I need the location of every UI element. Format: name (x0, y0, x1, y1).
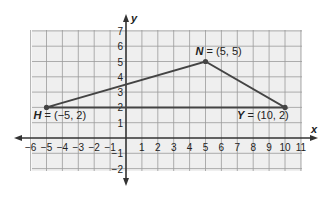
x-tick-label: 2 (155, 142, 161, 153)
y-tick-label: 6 (117, 41, 123, 52)
x-axis-label: x (310, 123, 318, 135)
x-tick-label: 6 (219, 142, 225, 153)
point-y-label: Y = (10, 2) (237, 109, 289, 121)
x-tick-label: −5 (41, 142, 53, 153)
y-axis-bottom-arrow-icon (123, 178, 129, 186)
point-n-label: N = (5, 5) (196, 45, 242, 57)
y-axis-top-arrow-icon (123, 14, 129, 22)
x-tick-label: −2 (88, 142, 100, 153)
x-tick-label: 10 (279, 142, 291, 153)
x-tick-label: 11 (296, 142, 307, 153)
y-axis-label: y (130, 12, 138, 24)
x-axis-left-arrow-icon (14, 135, 22, 141)
y-tick-label: 3 (117, 87, 123, 98)
y-tick-label: 1 (117, 118, 123, 129)
x-tick-label: 3 (171, 142, 177, 153)
x-tick-label: −6 (25, 142, 37, 153)
x-tick-label: 1 (139, 142, 145, 153)
y-tick-label: 5 (117, 57, 123, 68)
x-tick-label: 8 (250, 142, 256, 153)
y-tick-label: −2 (112, 164, 124, 175)
x-tick-label: 7 (235, 142, 241, 153)
x-tick-label: 9 (266, 142, 272, 153)
x-tick-label: −4 (57, 142, 69, 153)
x-tick-label: 4 (187, 142, 193, 153)
x-tick-label: −3 (73, 142, 85, 153)
y-tick-label: 4 (117, 72, 123, 83)
point-n-dot-icon (203, 59, 208, 64)
y-tick-label: −1 (112, 148, 124, 159)
y-tick-label: 7 (117, 26, 123, 37)
x-axis-right-arrow-icon (310, 135, 318, 141)
coordinate-plane: x y −6−5−4−3−2−11234567891011 7654321−1−… (0, 0, 330, 198)
point-h-label: H = (−5, 2) (34, 109, 87, 121)
x-tick-label: 5 (203, 142, 209, 153)
